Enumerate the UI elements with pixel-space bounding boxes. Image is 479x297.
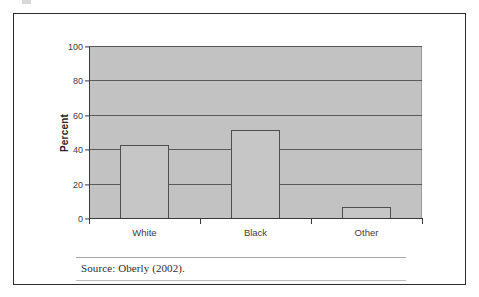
y-tick-label: 80 [73,76,83,86]
x-tick-mark [200,219,201,224]
source-note: Source: Oberly (2002). [81,262,185,274]
x-axis-labels: WhiteBlackOther [89,227,422,238]
x-axis-line [89,218,423,219]
x-axis-label-white: White [89,227,200,238]
x-axis-label-other: Other [311,227,422,238]
y-tick-label: 100 [68,42,83,52]
x-tick-mark [311,219,312,224]
bar-slot [89,47,200,219]
bar-slot [311,47,422,219]
x-tick-mark [422,219,423,224]
x-tick-mark [89,219,90,224]
caption-rule-top [76,257,406,258]
y-axis-title: Percent [59,114,70,152]
y-tick-label: 40 [73,145,83,155]
bar-black[interactable] [231,130,280,219]
bar-chart: Percent 020406080100 WhiteBlackOther [89,47,422,219]
y-tick-label: 60 [73,111,83,121]
y-tick-label: 20 [73,180,83,190]
bar-slot [200,47,311,219]
scan-artifact [22,0,31,4]
bar-white[interactable] [120,145,169,219]
figure-frame: Percent 020406080100 WhiteBlackOther Sou… [13,13,466,285]
y-tick-label: 0 [78,214,83,224]
bar-series [89,47,422,219]
x-axis-label-black: Black [200,227,311,238]
caption-rule-bottom [76,280,406,281]
